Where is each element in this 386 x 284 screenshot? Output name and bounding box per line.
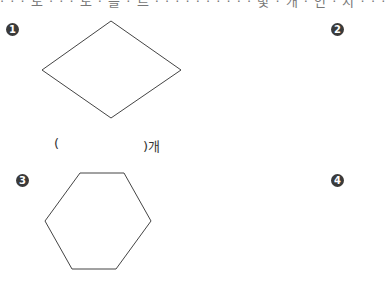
problem-number-4-marker: 4 — [331, 174, 344, 187]
